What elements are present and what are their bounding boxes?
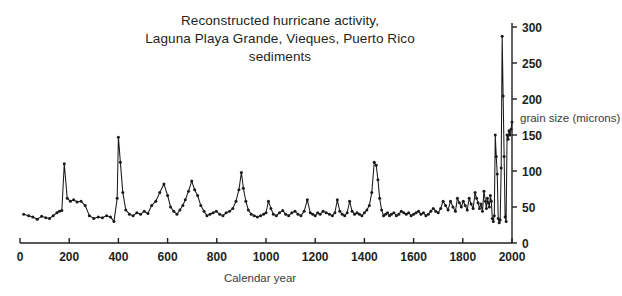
data-point [92,217,95,220]
data-point [360,214,363,217]
data-point [466,208,469,211]
data-point [458,201,461,204]
data-point [442,200,445,203]
data-point [162,182,165,185]
data-point [112,220,115,223]
y-tick-label: 50 [522,201,536,215]
data-point [66,197,69,200]
data-point [456,197,459,200]
chart-figure: Reconstructed hurricane activity, Laguna… [0,0,622,296]
data-point [281,209,284,212]
data-point [437,211,440,214]
data-point [481,210,484,213]
x-tick-label: 2000 [499,250,526,264]
data-point [225,211,228,214]
data-point [449,200,452,203]
data-point [139,213,142,216]
x-axis-title-wrap: Calendar year [0,268,520,286]
data-point [501,35,504,38]
y-tick-label: 100 [522,165,542,179]
data-point [314,214,317,217]
data-point [503,155,506,158]
data-point [427,213,430,216]
data-point [128,213,131,216]
data-point [135,211,138,214]
data-point [487,201,490,204]
data-point [319,213,322,216]
data-point [380,208,383,211]
data-point [290,211,293,214]
data-point [485,207,488,210]
data-point [287,214,290,217]
data-point [333,211,336,214]
data-point [184,198,187,201]
x-tick-label: 400 [108,250,128,264]
data-point [228,210,231,213]
data-point [244,200,247,203]
data-point [376,178,379,181]
data-point [208,213,211,216]
data-point [117,136,120,139]
data-point [492,220,495,223]
x-tick-label: 800 [207,250,227,264]
data-point [475,197,478,200]
data-point [498,221,501,224]
data-point [331,214,334,217]
data-point [40,215,43,218]
data-point [218,213,221,216]
data-point [166,194,169,197]
x-tick-label: 0 [17,250,24,264]
data-point [187,190,190,193]
data-point [494,134,497,137]
data-point [439,207,442,210]
data-point [215,210,218,213]
data-point [247,208,250,211]
data-series-layer [22,35,513,224]
data-point [504,216,507,219]
data-point [460,206,463,209]
data-point [488,206,491,209]
data-point [181,204,184,207]
data-point [22,213,25,216]
data-point [464,204,467,207]
data-point [250,213,253,216]
data-point [486,197,489,200]
data-point [190,180,193,183]
data-point [60,209,63,212]
data-point [76,200,79,203]
data-point [507,138,510,141]
data-point [480,203,483,206]
data-point [278,211,281,214]
data-point [370,191,373,194]
data-point [132,214,135,217]
data-point [509,134,512,137]
data-point [478,207,481,210]
data-point [80,200,83,203]
data-point [386,211,389,214]
data-point [105,214,108,217]
y-tick-label: 150 [522,129,542,143]
data-point [451,206,454,209]
data-point [296,213,299,216]
data-point [477,201,480,204]
data-point [109,216,112,219]
data-point [88,214,91,217]
data-point [322,210,325,213]
data-point [265,211,268,214]
data-point [150,204,153,207]
data-point [154,200,157,203]
data-point [346,211,349,214]
data-point [500,167,503,170]
data-point [444,204,447,207]
data-point [203,210,206,213]
data-point [417,210,420,213]
data-point [196,194,199,197]
x-tick-label: 1800 [449,250,476,264]
data-point [336,198,339,201]
data-point [432,207,435,210]
data-point [169,206,172,209]
data-point [472,207,475,210]
data-point [237,188,240,191]
x-tick-label: 200 [59,250,79,264]
data-point [240,171,243,174]
